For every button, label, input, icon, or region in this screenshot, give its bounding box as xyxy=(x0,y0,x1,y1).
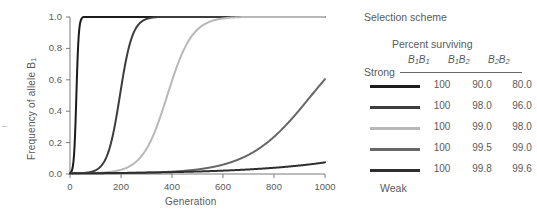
curve-second-selection xyxy=(70,17,325,173)
y-tick-label: 0.8 xyxy=(28,42,62,53)
legend-row: 10098.096.0 xyxy=(340,99,528,119)
legend-swatch xyxy=(370,106,420,109)
legend-cell: 100 xyxy=(425,121,459,132)
legend-cell: 98.0 xyxy=(505,121,537,132)
legend-cell: 90.0 xyxy=(465,79,499,90)
legend-subtitle: Percent surviving xyxy=(392,38,473,50)
y-axis-label-subscript: 1 xyxy=(29,57,38,61)
y-tick-label: 0.4 xyxy=(28,105,62,116)
legend-cell: 80.0 xyxy=(505,79,537,90)
legend-swatch xyxy=(370,148,420,151)
curves-group xyxy=(70,17,325,173)
y-tick-label: 1.0 xyxy=(28,11,62,22)
x-tick-label: 1000 xyxy=(305,181,345,192)
weak-selection-label: Weak xyxy=(380,182,407,194)
legend-cell: 99.0 xyxy=(465,121,499,132)
legend-swatch xyxy=(370,85,420,88)
legend-row: 10099.899.6 xyxy=(340,162,528,182)
legend-cell: 99.0 xyxy=(505,142,537,153)
x-tick-label: 400 xyxy=(152,181,192,192)
legend-cell: 96.0 xyxy=(505,100,537,111)
y-tick-label: 0.6 xyxy=(28,74,62,85)
legend-title: Selection scheme xyxy=(364,11,447,23)
genotype-header-b1b1: B1B1 xyxy=(408,54,430,66)
legend-swatch xyxy=(370,169,420,172)
legend-panel: Selection scheme Percent surviving B1B1 … xyxy=(340,0,528,216)
strong-selection-label: Strong xyxy=(364,66,395,78)
y-tick-label: 0.2 xyxy=(28,137,62,148)
legend-swatch xyxy=(370,127,420,130)
genotype-header-b1b2: B1B2 xyxy=(448,54,470,66)
legend-cell: 99.5 xyxy=(465,142,499,153)
curve-fourth-selection xyxy=(70,79,325,173)
genotype-header-b2b2: B2B2 xyxy=(488,54,510,66)
x-tick-label: 800 xyxy=(254,181,294,192)
legend-cell: 99.6 xyxy=(505,163,537,174)
x-tick-label: 200 xyxy=(101,181,141,192)
axes-group xyxy=(66,17,325,178)
legend-cell: 100 xyxy=(425,142,459,153)
y-tick-label: 0.0 xyxy=(28,168,62,179)
legend-cell: 98.0 xyxy=(465,100,499,111)
legend-cell: 99.8 xyxy=(465,163,499,174)
legend-cell: 100 xyxy=(425,100,459,111)
legend-row: 10090.080.0 xyxy=(340,78,528,98)
x-tick-label: 600 xyxy=(203,181,243,192)
x-axis-label: Generation xyxy=(165,196,216,207)
legend-header-rule xyxy=(400,72,522,73)
legend-row: 10099.599.0 xyxy=(340,141,528,161)
plot-panel: Frequency of allele B1 Generation 0.00.2… xyxy=(0,0,340,216)
x-tick-label: 0 xyxy=(50,181,90,192)
legend-row: 10099.098.0 xyxy=(340,120,528,140)
legend-cell: 100 xyxy=(425,79,459,90)
legend-cell: 100 xyxy=(425,163,459,174)
